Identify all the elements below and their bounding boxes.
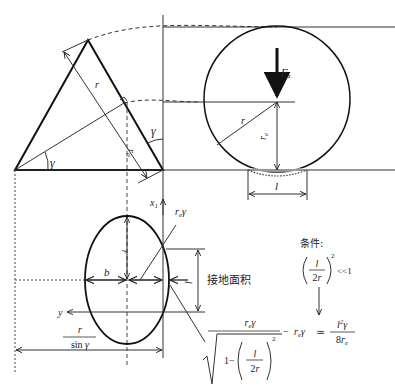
svg-text:2: 2 [272,335,276,343]
svg-text:l: l [316,258,319,269]
contact-area-label: 接地面积 [207,274,251,287]
label-l: l [275,180,278,192]
label-r-over-sin-gamma: sin γ [71,339,90,350]
tire-side-view: Fz r re l [204,26,350,200]
tire-cross-section: r r0 γ γ [15,15,395,358]
condition-relation: <<1 [337,266,352,276]
formula-numerator: reγ [245,317,257,330]
formula-result-num: l2γ [337,318,348,330]
svg-text:l: l [254,348,257,359]
svg-text:r: r [78,324,82,335]
label-r: r [95,79,99,90]
svg-text:l: l [183,281,194,284]
svg-text:2: 2 [331,252,335,260]
label-b: b [104,266,110,278]
tire-camber-diagram: r r0 γ γ Fz r re l [0,0,395,392]
svg-text:−: − [283,326,289,337]
label-re-gamma: reγ [175,206,187,219]
camber-triangle [15,40,163,170]
condition-block: 条件: l 2r 2 <<1 [300,237,352,315]
label-re: re [257,133,270,140]
label-y: y [57,307,63,318]
condition-label: 条件: [300,237,323,249]
approx-symbol: ≃ [316,326,325,338]
label-r0: r0 [124,149,137,157]
formula-result-den: 8re [336,334,348,347]
cond-den: 2r [313,272,322,283]
svg-text:1−: 1− [224,355,235,366]
r0-line [15,103,124,170]
label-gamma-left: γ [50,156,55,170]
label-x1: x1 [149,197,158,210]
formula-minus-term: reγ [294,326,306,339]
svg-text:2r: 2r [251,363,260,374]
sidewall-formula: reγ 1− l 2r 2 − reγ ≃ l2γ 8re [203,317,355,384]
contact-ellipse-view: b r reγ x1 y l r sin γ [15,197,205,350]
svg-text:r: r [120,250,130,254]
label-r-side: r [241,115,245,126]
label-Fz: Fz [280,66,291,80]
label-gamma-right: γ [151,124,156,138]
